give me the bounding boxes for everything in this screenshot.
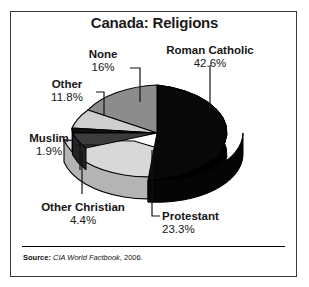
slice-label-protestant-name: Protestant bbox=[162, 210, 242, 223]
slice-label-other-christian-value: 4.4% bbox=[33, 214, 133, 227]
slice-label-protestant: Protestant 23.3% bbox=[162, 210, 242, 236]
slice-label-none: None 16% bbox=[78, 48, 128, 74]
source-year: , 2006. bbox=[120, 253, 143, 262]
pie-slice-roman-catholic[interactable] bbox=[148, 85, 243, 202]
source-work: CIA World Factbook bbox=[51, 253, 120, 262]
slice-label-other-name: Other bbox=[40, 78, 94, 91]
source-divider bbox=[22, 246, 285, 247]
slice-label-muslim-name: Muslim bbox=[22, 132, 76, 145]
slice-label-muslim-value: 1.9% bbox=[22, 145, 76, 158]
slice-label-muslim: Muslim 1.9% bbox=[22, 132, 76, 158]
slice-label-other-christian: Other Christian 4.4% bbox=[33, 201, 133, 227]
slice-label-other: Other 11.8% bbox=[40, 78, 94, 104]
slice-label-other-christian-name: Other Christian bbox=[33, 201, 133, 214]
slice-label-protestant-value: 23.3% bbox=[162, 223, 242, 236]
slice-label-none-value: 16% bbox=[78, 61, 128, 74]
source-note: Source: CIA World Factbook, 2006. bbox=[23, 253, 143, 262]
slice-label-other-value: 11.8% bbox=[40, 91, 94, 104]
source-label: Source: bbox=[23, 253, 51, 262]
slice-label-roman-catholic-name: Roman Catholic bbox=[154, 44, 266, 57]
chart-figure: Canada: Religions bbox=[0, 0, 309, 287]
slice-label-none-name: None bbox=[78, 48, 128, 61]
slice-label-roman-catholic-value: 42.6% bbox=[154, 57, 266, 70]
slice-label-roman-catholic: Roman Catholic 42.6% bbox=[154, 44, 266, 70]
